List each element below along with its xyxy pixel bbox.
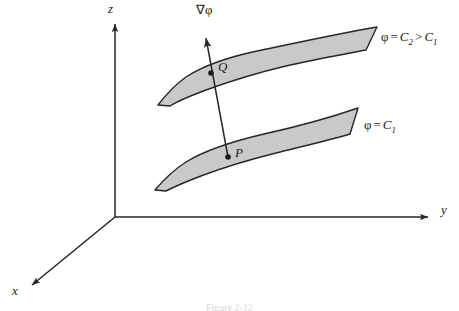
gradient-level-surface-figure: z y x ∇φ Q P φ=C2>C1 φ=C1 Figure 2-12 <box>0 0 459 311</box>
point-marker-p <box>225 154 231 160</box>
upper-surface-shape <box>158 27 377 106</box>
lower-level-surface <box>155 108 358 191</box>
gradient-vector-label: ∇φ <box>196 3 213 16</box>
lower-label-c1-subscript: 1 <box>392 125 397 135</box>
gradient-vector-shaft <box>206 38 228 157</box>
lower-label-equals: = <box>372 117 383 132</box>
lower-surface-shape <box>155 108 358 191</box>
gradient-vector-group <box>206 38 228 157</box>
lower-label-c1: C <box>383 117 392 132</box>
x-axis-label: x <box>12 284 18 297</box>
lower-surface-label: φ=C1 <box>364 118 396 135</box>
upper-label-c1-subscript: 1 <box>433 37 438 47</box>
upper-label-greater-than: > <box>413 29 424 44</box>
z-axis-label: z <box>108 2 113 15</box>
upper-label-c1: C <box>424 29 433 44</box>
point-marker-q <box>208 70 214 76</box>
lower-label-phi: φ <box>364 117 372 132</box>
upper-label-equals: = <box>389 29 400 44</box>
x-axis-line <box>32 217 115 285</box>
upper-label-phi: φ <box>381 29 389 44</box>
upper-label-c2: C <box>400 29 409 44</box>
figure-canvas <box>0 0 459 311</box>
point-label-q: Q <box>218 60 227 73</box>
y-axis-label: y <box>441 203 447 216</box>
figure-caption: Figure 2-12 <box>0 302 459 311</box>
upper-surface-label: φ=C2>C1 <box>381 30 438 47</box>
point-label-p: P <box>235 146 243 159</box>
upper-level-surface <box>158 27 377 106</box>
